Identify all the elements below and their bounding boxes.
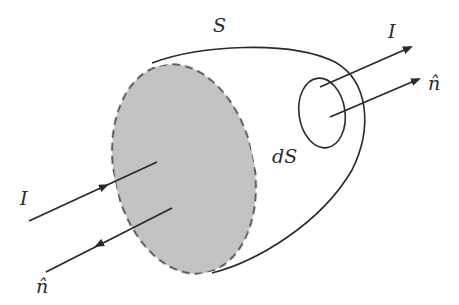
label-current-out: I xyxy=(387,20,396,42)
current-out-arrow xyxy=(320,47,411,87)
label-normal-in: n̂ xyxy=(36,275,48,297)
label-normal-out: n̂ xyxy=(428,72,440,94)
label-surface-s: S xyxy=(213,14,226,36)
surface-diagram: S I n̂ dS I n̂ xyxy=(0,0,459,305)
label-current-in: I xyxy=(19,187,28,209)
label-area-element: dS xyxy=(272,145,297,167)
shaded-open-face xyxy=(93,51,274,287)
normal-out-arrow xyxy=(330,79,419,117)
